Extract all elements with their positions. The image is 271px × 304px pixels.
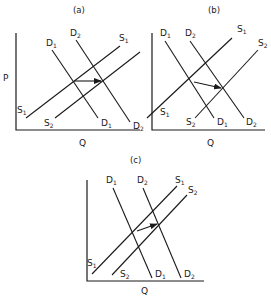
panel-b-s1-top-label: S1 — [237, 24, 247, 35]
panel-b-q-axis-label: Q — [207, 138, 214, 148]
panel-a-d2-bottom-label: D2 — [133, 121, 144, 132]
panel-a-p-axis-label: P — [3, 73, 9, 83]
panel-c-s2-bottom-label: S2 — [120, 269, 130, 280]
panel-b-s2-top-label: S2 — [258, 38, 268, 49]
panel-a-d2-top-label: D2 — [70, 28, 81, 39]
panel-c-s1-curve — [92, 186, 177, 274]
panel-a: (a) P Q D1 D1 D2 D2 S1 S1 S2 — [3, 5, 144, 148]
panel-c-title: (c) — [130, 155, 141, 165]
panel-b-d2-top-label: D2 — [185, 28, 196, 39]
panel-c-q-axis-label: Q — [141, 286, 148, 296]
supply-demand-figure: (a) P Q D1 D1 D2 D2 S1 S1 S2 (b) Q D1 D1… — [0, 0, 271, 304]
panel-a-title: (a) — [73, 5, 85, 15]
panel-a-d1-bottom-label: D1 — [101, 118, 112, 129]
panel-a-s1-top-label: S1 — [119, 33, 129, 44]
panel-b-shift-arrow — [194, 82, 221, 88]
panel-c-d2-top-label: D2 — [137, 175, 148, 186]
panel-b-d2-bottom-label: D2 — [246, 117, 257, 128]
panel-b: (b) Q D1 D1 D2 D2 S1 S1 S2 S2 — [147, 5, 268, 148]
panel-c-s1-bottom-label: S1 — [87, 258, 97, 269]
panel-c-d1-bottom-label: D1 — [155, 269, 166, 280]
panel-b-d1-top-label: D1 — [160, 28, 171, 39]
panel-a-s1-curve — [26, 46, 120, 118]
panel-c-s1-top-label: S1 — [175, 175, 185, 186]
panel-b-s1-bottom-label: S1 — [160, 107, 170, 118]
panel-c-s2-curve — [112, 195, 187, 275]
panel-c: (c) Q D1 D1 D2 D2 S1 S1 S2 S2 — [87, 155, 204, 296]
panel-a-s2-curve — [55, 52, 140, 118]
panel-c-s2-top-label: S2 — [188, 185, 198, 196]
panel-a-d1-top-label: D1 — [46, 38, 57, 49]
panel-a-s2-bottom-label: S2 — [44, 118, 54, 129]
panel-a-d1-curve — [52, 50, 98, 118]
panel-c-d2-bottom-label: D2 — [184, 269, 195, 280]
panel-b-s2-bottom-label: S2 — [186, 117, 196, 128]
panel-b-d1-bottom-label: D1 — [217, 117, 228, 128]
panel-c-d1-curve — [113, 188, 152, 278]
panel-c-d1-top-label: D1 — [106, 175, 117, 186]
panel-b-s1-curve — [147, 38, 232, 118]
panel-b-title: (b) — [208, 5, 220, 15]
panel-a-q-axis-label: Q — [79, 138, 86, 148]
panel-a-s1-bottom-label: S1 — [17, 105, 27, 116]
panel-b-d1-curve — [165, 41, 214, 118]
